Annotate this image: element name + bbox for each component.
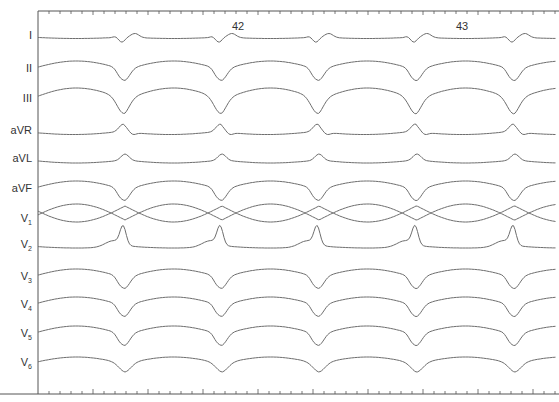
ecg-chart: 4243 [0, 0, 559, 402]
lead-label-v4: V4 [2, 298, 32, 312]
lead-label-v6: V6 [2, 356, 32, 370]
ecg-trace-v5 [38, 326, 556, 346]
ecg-trace-v6 [38, 357, 556, 372]
beat-number-label: 43 [456, 20, 468, 32]
lead-label-v5: V5 [2, 327, 32, 341]
ecg-trace-i [38, 34, 556, 43]
ecg-trace-v2 [38, 225, 556, 248]
ecg-trace-avr [38, 124, 556, 134]
beat-number-label: 42 [232, 20, 244, 32]
lead-label-i: I [2, 29, 32, 41]
lead-label-ii: II [2, 62, 32, 74]
lead-label-v2: V2 [2, 238, 32, 252]
ecg-trace-avl [38, 154, 556, 163]
ecg-trace-v4 [38, 297, 556, 317]
ecg-trace-ii [38, 61, 556, 81]
lead-label-avr: aVR [2, 124, 32, 136]
ecg-trace-v1 [38, 204, 556, 220]
lead-label-v1: V1 [2, 212, 32, 226]
lead-label-avl: aVL [2, 152, 32, 164]
ecg-trace-avf [38, 181, 556, 201]
ecg-trace-iii [38, 88, 556, 114]
lead-label-v3: V3 [2, 270, 32, 284]
lead-label-avf: aVF [2, 182, 32, 194]
lead-label-iii: III [2, 92, 32, 104]
ecg-trace-v1 [38, 206, 556, 222]
ecg-trace-v3 [38, 269, 556, 289]
